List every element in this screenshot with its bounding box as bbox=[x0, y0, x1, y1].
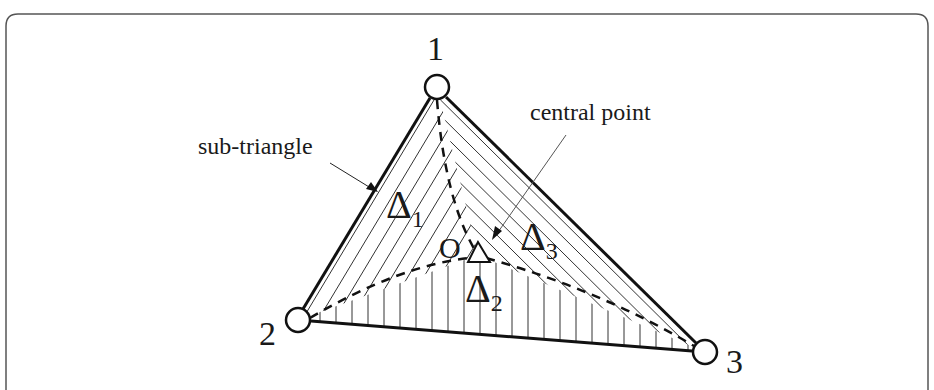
delta-2-symbol: Δ bbox=[465, 266, 491, 311]
central-point-annotation: central point bbox=[530, 99, 651, 125]
delta-2-index: 2 bbox=[491, 290, 503, 316]
delta-1-index: 1 bbox=[412, 206, 424, 232]
vertex-2-label: 2 bbox=[259, 315, 276, 352]
delta-3-index: 3 bbox=[546, 238, 558, 264]
sub-triangle-annotation: sub-triangle bbox=[198, 133, 313, 159]
triangle-diagram: 1 2 3 sub-triangle central point O Δ1 Δ2… bbox=[0, 0, 934, 390]
vertex-1-node bbox=[425, 75, 449, 99]
vertex-3-label: 3 bbox=[726, 343, 743, 380]
delta-1-symbol: Δ bbox=[386, 182, 412, 227]
delta-3-symbol: Δ bbox=[520, 214, 546, 259]
central-point-label: O bbox=[439, 231, 461, 264]
delta-3-label: Δ3 bbox=[520, 214, 558, 264]
vertex-1-label: 1 bbox=[427, 30, 444, 67]
vertex-3-node bbox=[693, 340, 717, 364]
delta-2-label: Δ2 bbox=[465, 266, 503, 316]
delta-1-label: Δ1 bbox=[386, 182, 424, 232]
vertex-2-node bbox=[286, 308, 310, 332]
sub-triangle-arrow bbox=[330, 163, 374, 190]
